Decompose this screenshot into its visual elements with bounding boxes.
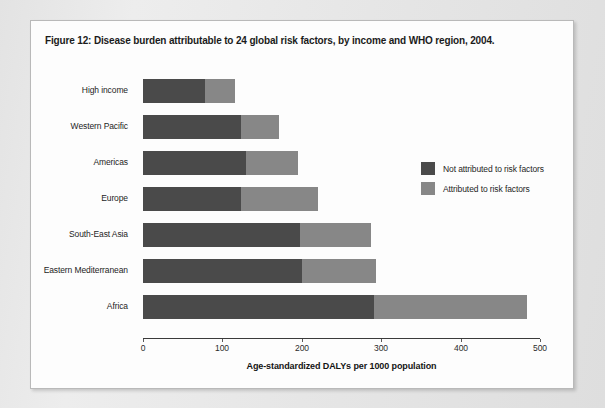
bar-segment-attributed <box>241 115 279 139</box>
x-axis-tick-label: 200 <box>295 343 309 353</box>
x-axis-tick-label: 100 <box>215 343 229 353</box>
bar-segment-not-attributed <box>143 79 205 103</box>
x-axis-tick <box>302 339 303 342</box>
legend-item-label: Not attributed to risk factors <box>443 164 544 174</box>
bar-row <box>143 295 527 319</box>
x-axis-tick-label: 0 <box>141 343 146 353</box>
bar-row <box>143 115 279 139</box>
bar-segment-attributed <box>374 295 527 319</box>
bar-row <box>143 187 318 211</box>
chart-plot-area: 0 100 200 300 400 500 Age-standardized D… <box>31 21 574 389</box>
bar-segment-attributed <box>302 259 376 283</box>
chart-legend: Not attributed to risk factors Attribute… <box>421 162 544 202</box>
x-axis-tick-label: 500 <box>533 343 547 353</box>
y-axis-category-label: High income <box>82 85 128 95</box>
legend-item-label: Attributed to risk factors <box>443 184 530 194</box>
x-axis-tick <box>143 339 144 342</box>
bar-segment-not-attributed <box>143 115 241 139</box>
bar-segment-not-attributed <box>143 295 374 319</box>
y-axis-category-label: Americas <box>93 157 128 167</box>
bar-row <box>143 79 235 103</box>
x-axis-title: Age-standardized DALYs per 1000 populati… <box>143 361 540 371</box>
x-axis-tick <box>381 339 382 342</box>
y-axis-category-label: Western Pacific <box>71 121 128 131</box>
bar-row <box>143 259 376 283</box>
y-axis-category-label: Africa <box>107 301 128 311</box>
bar-row <box>143 223 371 247</box>
bar-segment-attributed <box>300 223 371 247</box>
legend-swatch-icon <box>421 182 435 195</box>
bar-segment-attributed <box>246 151 298 175</box>
bar-segment-not-attributed <box>143 187 241 211</box>
y-axis-category-label: Europe <box>101 193 128 203</box>
y-axis-category-label: Eastern Mediterranean <box>44 265 128 275</box>
bar-segment-not-attributed <box>143 259 302 283</box>
bar-segment-attributed <box>205 79 235 103</box>
legend-swatch-icon <box>421 162 435 175</box>
bar-segment-attributed <box>241 187 318 211</box>
bar-segment-not-attributed <box>143 151 246 175</box>
x-axis-tick-label: 400 <box>454 343 468 353</box>
x-axis-tick-label: 300 <box>374 343 388 353</box>
x-axis-tick <box>540 339 541 342</box>
bar-segment-not-attributed <box>143 223 300 247</box>
figure-panel: Figure 12: Disease burden attributable t… <box>30 20 574 389</box>
x-axis-line <box>143 338 540 339</box>
x-axis-tick <box>461 339 462 342</box>
y-axis-category-label: South-East Asia <box>69 229 128 239</box>
x-axis-tick <box>222 339 223 342</box>
legend-item: Not attributed to risk factors <box>421 162 544 175</box>
legend-item: Attributed to risk factors <box>421 182 544 195</box>
bar-row <box>143 151 298 175</box>
